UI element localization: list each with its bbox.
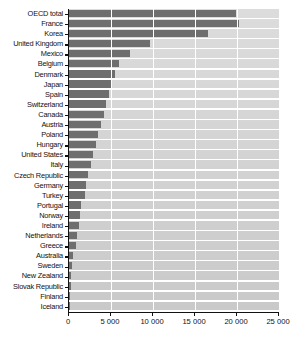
category-tick bbox=[65, 297, 69, 298]
bar-row bbox=[69, 241, 279, 251]
x-axis-tick bbox=[278, 312, 279, 316]
category-label: Belgium bbox=[0, 59, 66, 69]
category-tick bbox=[65, 125, 69, 126]
category-label: Portugal bbox=[0, 201, 66, 211]
category-tick bbox=[65, 44, 69, 45]
bar bbox=[69, 181, 86, 188]
bar-row bbox=[69, 181, 279, 191]
bar-row bbox=[69, 160, 279, 170]
bar bbox=[69, 242, 76, 249]
x-axis-tick-label: 0 bbox=[66, 317, 70, 326]
bar-chart: OECD totalFranceKoreaUnited KingdomMexic… bbox=[0, 0, 291, 340]
category-tick bbox=[65, 75, 69, 76]
bar-row bbox=[69, 251, 279, 261]
category-tick bbox=[65, 256, 69, 257]
bar bbox=[69, 171, 88, 178]
category-tick bbox=[65, 135, 69, 136]
category-label: Korea bbox=[0, 29, 66, 39]
category-tick bbox=[65, 176, 69, 177]
x-axis-tick bbox=[236, 312, 237, 316]
category-label: Norway bbox=[0, 211, 66, 221]
category-label: Austria bbox=[0, 120, 66, 130]
x-axis-line bbox=[68, 312, 278, 313]
category-tick bbox=[65, 105, 69, 106]
bar-row bbox=[69, 201, 279, 211]
category-label: Finland bbox=[0, 292, 66, 302]
bar-row bbox=[69, 39, 279, 49]
bar-row bbox=[69, 59, 279, 69]
bar bbox=[69, 141, 96, 148]
bar bbox=[69, 131, 98, 138]
bar bbox=[69, 90, 109, 97]
category-tick bbox=[65, 85, 69, 86]
category-label: Ireland bbox=[0, 221, 66, 231]
category-tick bbox=[65, 216, 69, 217]
category-label: Poland bbox=[0, 130, 66, 140]
x-axis-tick bbox=[110, 312, 111, 316]
bar-row bbox=[69, 211, 279, 221]
x-axis-tick bbox=[152, 312, 153, 316]
bar-row bbox=[69, 80, 279, 90]
bar-row bbox=[69, 282, 279, 292]
category-label: Greece bbox=[0, 241, 66, 251]
category-tick bbox=[65, 307, 69, 308]
category-tick bbox=[65, 196, 69, 197]
category-tick bbox=[65, 236, 69, 237]
category-label: Hungary bbox=[0, 140, 66, 150]
category-label: Slovak Republic bbox=[0, 282, 66, 292]
category-label: Netherlands bbox=[0, 231, 66, 241]
bar bbox=[69, 30, 208, 37]
bar bbox=[69, 80, 112, 87]
category-label: Denmark bbox=[0, 70, 66, 80]
bar-row bbox=[69, 140, 279, 150]
bar-row bbox=[69, 130, 279, 140]
x-axis-tick-label: 20 000 bbox=[224, 317, 247, 326]
bar bbox=[69, 191, 85, 198]
bar bbox=[69, 121, 101, 128]
bar-row bbox=[69, 9, 279, 19]
bar bbox=[69, 111, 104, 118]
bar bbox=[69, 211, 80, 218]
bar-row bbox=[69, 90, 279, 100]
category-tick bbox=[65, 226, 69, 227]
bar bbox=[69, 232, 77, 239]
plot-area bbox=[68, 9, 279, 312]
category-tick bbox=[65, 206, 69, 207]
category-tick bbox=[65, 166, 69, 167]
category-tick bbox=[65, 115, 69, 116]
bar bbox=[69, 292, 70, 299]
category-tick bbox=[65, 65, 69, 66]
bar-row bbox=[69, 19, 279, 29]
category-label: United Kingdom bbox=[0, 39, 66, 49]
bar-row bbox=[69, 271, 279, 281]
bar bbox=[69, 100, 106, 107]
category-label: Italy bbox=[0, 160, 66, 170]
category-tick bbox=[65, 145, 69, 146]
bar bbox=[69, 302, 70, 309]
bar bbox=[69, 161, 91, 168]
bar bbox=[69, 282, 71, 289]
category-tick bbox=[65, 246, 69, 247]
gridline bbox=[111, 9, 112, 312]
bar-row bbox=[69, 100, 279, 110]
category-tick bbox=[65, 287, 69, 288]
category-label: Switzerland bbox=[0, 100, 66, 110]
bar-row bbox=[69, 231, 279, 241]
bar-row bbox=[69, 302, 279, 312]
category-tick bbox=[65, 95, 69, 96]
bar-rows bbox=[69, 9, 279, 312]
category-label: Sweden bbox=[0, 261, 66, 271]
bar bbox=[69, 151, 93, 158]
category-label: Mexico bbox=[0, 49, 66, 59]
category-tick bbox=[65, 277, 69, 278]
category-label: Canada bbox=[0, 110, 66, 120]
bar-row bbox=[69, 171, 279, 181]
category-label: France bbox=[0, 19, 66, 29]
bar bbox=[69, 252, 73, 259]
gridline bbox=[195, 9, 196, 312]
bar bbox=[69, 262, 72, 269]
category-tick bbox=[65, 267, 69, 268]
gridline bbox=[279, 9, 280, 312]
category-label: Spain bbox=[0, 90, 66, 100]
x-axis-tick bbox=[194, 312, 195, 316]
